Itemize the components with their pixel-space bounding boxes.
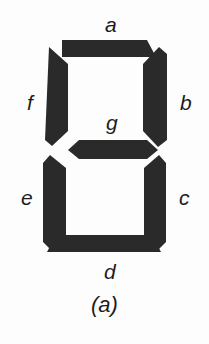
- segment-f-shape: [45, 47, 68, 146]
- segment-label-b: b: [180, 92, 192, 113]
- segment-label-c: c: [179, 187, 190, 208]
- segment-label-e: e: [21, 187, 33, 208]
- segment-label-g: g: [106, 112, 118, 133]
- segment-d-shape: [47, 235, 161, 252]
- seven-segment-figure: a b c d e f g (a): [0, 0, 209, 344]
- segment-a-shape: [62, 40, 156, 57]
- segment-label-f: f: [27, 92, 33, 113]
- figure-caption: (a): [0, 292, 209, 318]
- segment-label-a: a: [105, 14, 117, 35]
- segment-g-shape: [68, 140, 158, 159]
- segment-label-d: d: [104, 261, 116, 282]
- segment-b-shape: [143, 47, 167, 147]
